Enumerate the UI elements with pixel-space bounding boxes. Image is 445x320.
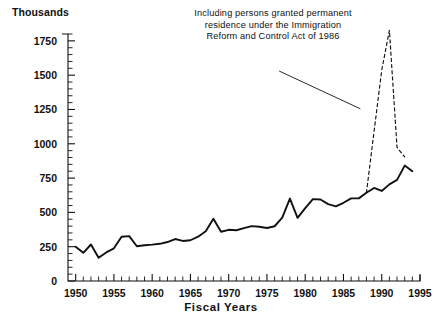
- series-line-1: [366, 30, 404, 192]
- x-tick-label: 1965: [179, 287, 202, 299]
- y-axis-unit-label: Thousands: [12, 6, 69, 18]
- chart-annotation-text: Including persons granted permanent resi…: [163, 8, 383, 43]
- x-tick-label: 1990: [370, 287, 393, 299]
- x-tick-label: 1980: [294, 287, 317, 299]
- y-tick-label: 1000: [0, 138, 57, 150]
- y-tick-label: 750: [0, 172, 57, 184]
- y-tick-label: 1250: [0, 103, 57, 115]
- x-tick-label: 1950: [64, 287, 87, 299]
- immigration-line-chart: Thousands Including persons granted perm…: [0, 0, 445, 320]
- x-tick-label: 1985: [332, 287, 355, 299]
- y-tick-label: 1750: [0, 35, 57, 47]
- y-tick-label: 250: [0, 241, 57, 253]
- plot-area: [0, 0, 445, 320]
- data-series-group: [76, 30, 413, 257]
- x-axis-title: Fiscal Years: [184, 301, 258, 313]
- series-line-0: [76, 166, 413, 258]
- y-tick-label: 0: [0, 275, 57, 287]
- annotation-leader-line: [279, 71, 360, 109]
- x-tick-label: 1975: [255, 287, 278, 299]
- axis-ticks: [68, 34, 420, 281]
- x-tick-label: 1960: [140, 287, 163, 299]
- y-tick-label: 500: [0, 206, 57, 218]
- x-tick-label: 1970: [217, 287, 240, 299]
- x-tick-label: 1995: [408, 287, 431, 299]
- y-tick-label: 1500: [0, 69, 57, 81]
- x-tick-label: 1955: [102, 287, 125, 299]
